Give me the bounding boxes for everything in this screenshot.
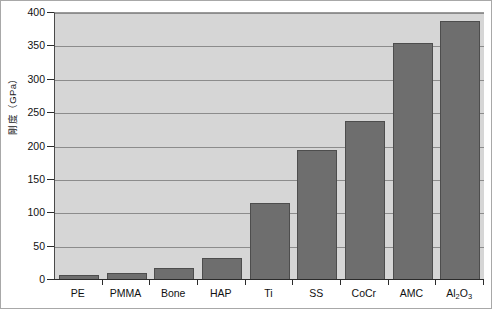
- y-axis-tick-mark: [47, 212, 54, 213]
- y-axis-tick-label: 250: [17, 107, 45, 118]
- y-axis-tick-label: 300: [17, 74, 45, 85]
- x-axis-category-label: PE: [71, 288, 85, 299]
- bar: [345, 121, 385, 280]
- x-axis-category-label: CoCr: [352, 288, 377, 299]
- y-axis-tick-label: 100: [17, 207, 45, 218]
- y-axis-tick-mark: [47, 112, 54, 113]
- x-axis-category-label: SS: [309, 288, 323, 299]
- bar: [297, 150, 337, 280]
- y-axis-tick-label: 150: [17, 174, 45, 185]
- x-axis-category-label: AMC: [400, 288, 423, 299]
- y-axis-tick-label: 50: [17, 240, 45, 251]
- x-axis-tick-mark: [435, 279, 436, 285]
- x-axis-category-label: HAP: [210, 288, 232, 299]
- x-axis-tick-mark: [388, 279, 389, 285]
- x-axis-category-label: Ti: [264, 288, 272, 299]
- x-axis-tick-mark: [292, 279, 293, 285]
- bar: [440, 21, 480, 280]
- y-axis-tick-mark: [47, 12, 54, 13]
- x-axis-tick-mark: [483, 279, 484, 285]
- x-axis-category-label: Bone: [161, 288, 186, 299]
- y-axis-tick-label: 400: [17, 7, 45, 18]
- plot-area: [54, 12, 484, 280]
- y-axis-tick-label-group: 400350300250200150100500: [17, 1, 45, 309]
- bar: [202, 258, 242, 280]
- bar-series: [55, 13, 484, 280]
- bar: [393, 43, 433, 280]
- x-axis-tick-mark: [197, 279, 198, 285]
- x-axis-category-label: PMMA: [110, 288, 142, 299]
- y-axis-tick-mark: [47, 179, 54, 180]
- x-axis-tick-mark: [340, 279, 341, 285]
- y-axis-tick-mark: [47, 146, 54, 147]
- y-axis-tick-label: 0: [17, 274, 45, 285]
- y-axis-tick-mark: [47, 79, 54, 80]
- y-axis-tick-mark: [47, 279, 54, 280]
- bar: [250, 203, 290, 280]
- x-axis-tick-mark: [149, 279, 150, 285]
- y-axis-tick-label: 200: [17, 140, 45, 151]
- x-axis-tick-mark: [102, 279, 103, 285]
- x-axis-category-label: Al2O3: [446, 288, 472, 299]
- x-axis-line: [47, 279, 483, 280]
- x-axis-tick-mark: [245, 279, 246, 285]
- y-axis-tick-label: 350: [17, 40, 45, 51]
- chart-figure: 剛度（GPa） 400350300250200150100500 PEPMMAB…: [0, 0, 492, 309]
- y-axis-tick-mark: [47, 45, 54, 46]
- y-axis-tick-mark: [47, 246, 54, 247]
